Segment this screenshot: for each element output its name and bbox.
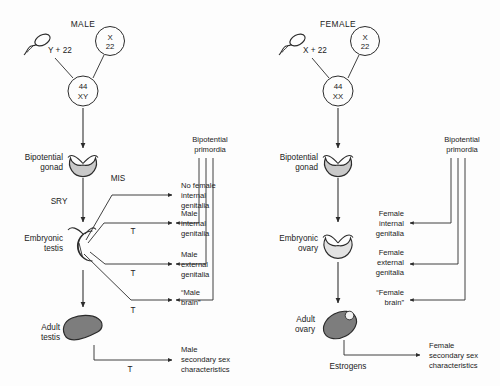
outcome-line: Female <box>379 248 404 257</box>
signal-label-sry: SRY <box>51 197 68 206</box>
sexual-differentiation-diagram: MALE Y + 22 X 22 44 XY <box>0 0 500 386</box>
outcome-line: external <box>181 260 208 269</box>
outcome-line: Male <box>181 250 197 259</box>
outcome-line: Male <box>181 345 197 354</box>
zygote-autosomes-female: 44 <box>334 82 343 91</box>
diagram-canvas: MALE Y + 22 X 22 44 XY <box>0 0 500 386</box>
primordia-label-line2-male: primordia <box>194 145 226 154</box>
zygote-sex-chromosomes-male: XY <box>78 92 89 101</box>
signal-label-mis: MIS <box>111 174 126 183</box>
egg-chromosome-x-male: X <box>107 33 113 42</box>
outcome-line: Female <box>379 209 404 218</box>
egg-autosomes-female: 22 <box>361 42 370 51</box>
embryonic-ovary-label-line1-female: Embryonic <box>279 234 318 243</box>
outcome-line: genitalia <box>376 268 405 277</box>
adult-testis-label-line2-male: testis <box>41 333 60 342</box>
adult-ovary-label-line2-female: ovary <box>295 325 316 334</box>
outcome-line: characteristics <box>181 365 230 374</box>
primordia-label-line2-female: primordia <box>446 145 478 154</box>
outcome-line: genitalia <box>181 270 210 279</box>
outcome-line: No female <box>181 181 216 190</box>
outcome-female-internal-genitalia: Female internal genitalia <box>376 209 405 238</box>
outcome-line: internal <box>181 191 206 200</box>
outcome-line: characteristics <box>429 361 478 370</box>
egg-autosomes-male: 22 <box>106 42 115 51</box>
signal-label-t-brain: T <box>130 306 135 315</box>
outcome-line: Female <box>429 341 454 350</box>
primordia-label-line1-female: Bipotential <box>444 135 480 144</box>
zygote-autosomes-male: 44 <box>79 82 88 91</box>
sperm-genotype-label-male: Y + 22 <box>48 46 72 55</box>
bipotential-gonad-label-line1-female: Bipotential <box>280 153 318 162</box>
outcome-female-external-genitalia: Female external genitalia <box>376 248 405 277</box>
egg-chromosome-x-female: X <box>362 33 368 42</box>
embryonic-ovary-label-line2-female: ovary <box>298 244 319 253</box>
signal-label-t-internal: T <box>130 227 135 236</box>
adult-ovary-label-line1-female: Adult <box>296 315 315 324</box>
outcome-line: “Male <box>181 288 200 297</box>
outcome-line: genitalia <box>376 229 405 238</box>
outcome-line: secondary sex <box>181 355 230 364</box>
outcome-line: internal <box>181 219 206 228</box>
panel-heading-male: MALE <box>71 19 96 29</box>
outcome-line: brain” <box>385 298 405 307</box>
outcome-line: secondary sex <box>429 351 478 360</box>
bipotential-gonad-label-line2-female: gonad <box>295 163 318 172</box>
signal-label-t-secondary: T <box>127 365 132 374</box>
bipotential-gonad-label-line2-male: gonad <box>40 163 63 172</box>
outcome-line: brain” <box>181 298 201 307</box>
outcome-line: internal <box>379 219 404 228</box>
outcome-male-brain: “Male brain” <box>181 288 201 307</box>
embryonic-testis-label-line1-male: Embryonic <box>24 234 63 243</box>
adult-testis-label-line1-male: Adult <box>41 323 60 332</box>
zygote-sex-chromosomes-female: XX <box>333 92 344 101</box>
ovarian-follicle-icon <box>345 311 354 320</box>
signal-label-t-external: T <box>130 269 135 278</box>
outcome-line: Male <box>181 209 197 218</box>
primordia-label-line1-male: Bipotential <box>192 135 228 144</box>
bipotential-gonad-label-line1-male: Bipotential <box>25 153 63 162</box>
signal-label-estrogens: Estrogens <box>330 362 367 371</box>
panel-heading-female: FEMALE <box>320 19 356 29</box>
outcome-line: “Female <box>376 288 404 297</box>
sperm-genotype-label-female: X + 22 <box>303 46 327 55</box>
embryonic-testis-label-line2-male: testis <box>44 244 63 253</box>
outcome-line: external <box>377 258 404 267</box>
